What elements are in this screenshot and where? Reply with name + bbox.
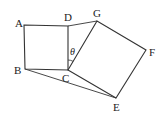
square-abcd (24, 25, 68, 70)
label-a: A (15, 17, 23, 29)
label-c: C (62, 72, 69, 84)
segment-dg (68, 21, 97, 26)
label-e: E (113, 101, 120, 113)
label-g: G (93, 7, 101, 19)
label-f: F (149, 46, 155, 58)
geometry-diagram: A B C D E F G θ (0, 0, 166, 119)
label-b: B (14, 64, 21, 76)
label-d: D (64, 11, 72, 23)
angle-arc-theta (68, 60, 73, 61)
segment-be (25, 69, 116, 98)
label-theta: θ (70, 46, 75, 57)
